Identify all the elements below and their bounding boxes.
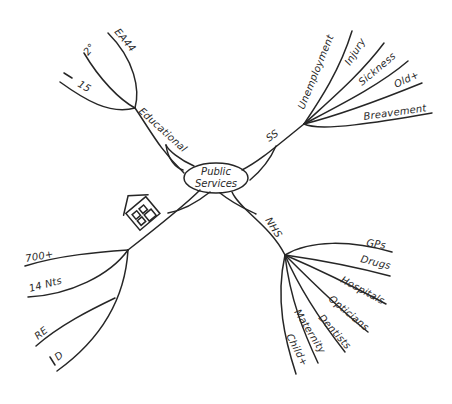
leaf-14-nts: 14 Nts xyxy=(28,275,63,294)
branch-educational: Educational EA44 2° 15 xyxy=(60,26,194,173)
branch-label-educational: Educational xyxy=(137,105,190,154)
leaf-d: D xyxy=(52,349,65,363)
leaf-injury: Injury xyxy=(342,35,367,67)
mind-map: Public Services Educational EA44 2° 15 S… xyxy=(0,0,452,404)
center-label-line1: Public xyxy=(201,166,231,177)
branch-label-ss: SS xyxy=(264,127,281,144)
leaf-700: 700+ xyxy=(24,248,54,264)
leaf-15: 15 xyxy=(76,78,93,94)
leaf-2nd: 2° xyxy=(81,41,97,57)
center-label-line2: Services xyxy=(195,178,237,189)
leaf-gps: GPs xyxy=(366,237,387,251)
leaf-re: RE xyxy=(32,324,50,342)
house-icon xyxy=(116,186,162,233)
leaf-hospitals: Hospitals xyxy=(339,274,386,306)
branch-housing: 700+ 14 Nts RE D xyxy=(24,186,210,371)
leaf-unemployment: Unemployment xyxy=(296,32,336,110)
leaf-drugs: Drugs xyxy=(360,253,392,271)
center-node: Public Services xyxy=(184,163,248,193)
branch-nhs: NHS GPs Drugs Hospitals Opticians Dentis… xyxy=(220,192,392,374)
branch-ss: SS Unemployment Injury Sickness Old+ Bre… xyxy=(242,31,432,180)
leaf-ea44: EA44 xyxy=(112,26,138,54)
leaf-old: Old+ xyxy=(392,69,420,90)
branch-label-nhs: NHS xyxy=(263,215,284,240)
